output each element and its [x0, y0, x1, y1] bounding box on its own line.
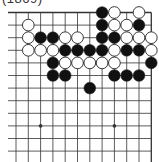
black-stone — [96, 32, 108, 44]
white-stone — [109, 7, 121, 19]
white-stone — [109, 44, 121, 56]
black-stone — [96, 19, 108, 31]
white-stone — [22, 44, 34, 56]
black-stone — [84, 82, 96, 94]
black-stone — [96, 7, 108, 19]
black-stone — [47, 32, 59, 44]
white-stone — [22, 32, 34, 44]
white-stone — [96, 57, 108, 69]
black-stone — [109, 32, 121, 44]
white-stone — [84, 57, 96, 69]
black-stone — [59, 70, 71, 82]
black-stone — [133, 44, 145, 56]
white-stone — [109, 19, 121, 31]
black-stone — [96, 44, 108, 56]
black-stone — [35, 32, 47, 44]
black-stone — [121, 70, 133, 82]
star-point — [39, 124, 43, 128]
white-stone — [121, 19, 133, 31]
black-stone — [72, 44, 84, 56]
white-stone — [133, 32, 145, 44]
black-stone — [84, 44, 96, 56]
white-stone — [59, 32, 71, 44]
white-stone — [145, 32, 157, 44]
black-stone — [133, 70, 145, 82]
white-stone — [109, 57, 121, 69]
black-stone — [121, 44, 133, 56]
black-stone — [59, 44, 71, 56]
white-stone — [121, 32, 133, 44]
white-stone — [72, 57, 84, 69]
black-stone — [109, 70, 121, 82]
black-stone — [47, 70, 59, 82]
white-stone — [133, 7, 145, 19]
black-stone — [133, 19, 145, 31]
white-stone — [35, 44, 47, 56]
white-stone — [72, 32, 84, 44]
go-board — [0, 0, 159, 162]
white-stone — [59, 57, 71, 69]
white-stone — [47, 44, 59, 56]
white-stone — [22, 19, 34, 31]
white-stone — [145, 44, 157, 56]
black-stone — [145, 57, 157, 69]
star-point — [113, 124, 117, 128]
black-stone — [47, 57, 59, 69]
